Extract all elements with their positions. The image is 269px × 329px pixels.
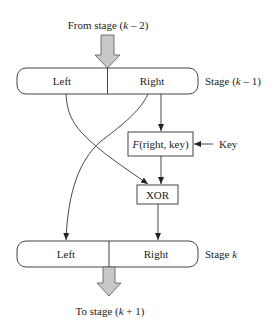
stage-prev-left: Left — [53, 75, 71, 87]
stage-curr-right: Right — [144, 248, 168, 260]
stage-prev-register: Left Right — [17, 68, 198, 94]
function-box: F(right, key) — [128, 132, 193, 156]
xor-box: XOR — [137, 185, 178, 204]
fat-arrow-down-icon — [95, 35, 120, 68]
feistel-round-diagram: From stage (k – 2) Left Right Stage (k –… — [0, 0, 269, 329]
stage-curr-left: Left — [57, 248, 75, 260]
stage-prev-label: Stage (k – 1) — [205, 75, 261, 88]
stage-curr-register: Left Right — [17, 241, 198, 267]
key-label: Key — [219, 138, 238, 150]
svg-text:XOR: XOR — [146, 189, 170, 201]
to-stage-label: To stage (k + 1) — [76, 305, 145, 318]
stage-curr-label: Stage k — [205, 248, 238, 260]
stage-prev-right: Right — [140, 75, 164, 87]
fat-arrow-down-icon — [97, 267, 121, 296]
right-to-left-curve — [66, 94, 148, 240]
from-stage-label: From stage (k – 2) — [68, 19, 149, 32]
svg-text:F(right, key): F(right, key) — [131, 138, 189, 151]
